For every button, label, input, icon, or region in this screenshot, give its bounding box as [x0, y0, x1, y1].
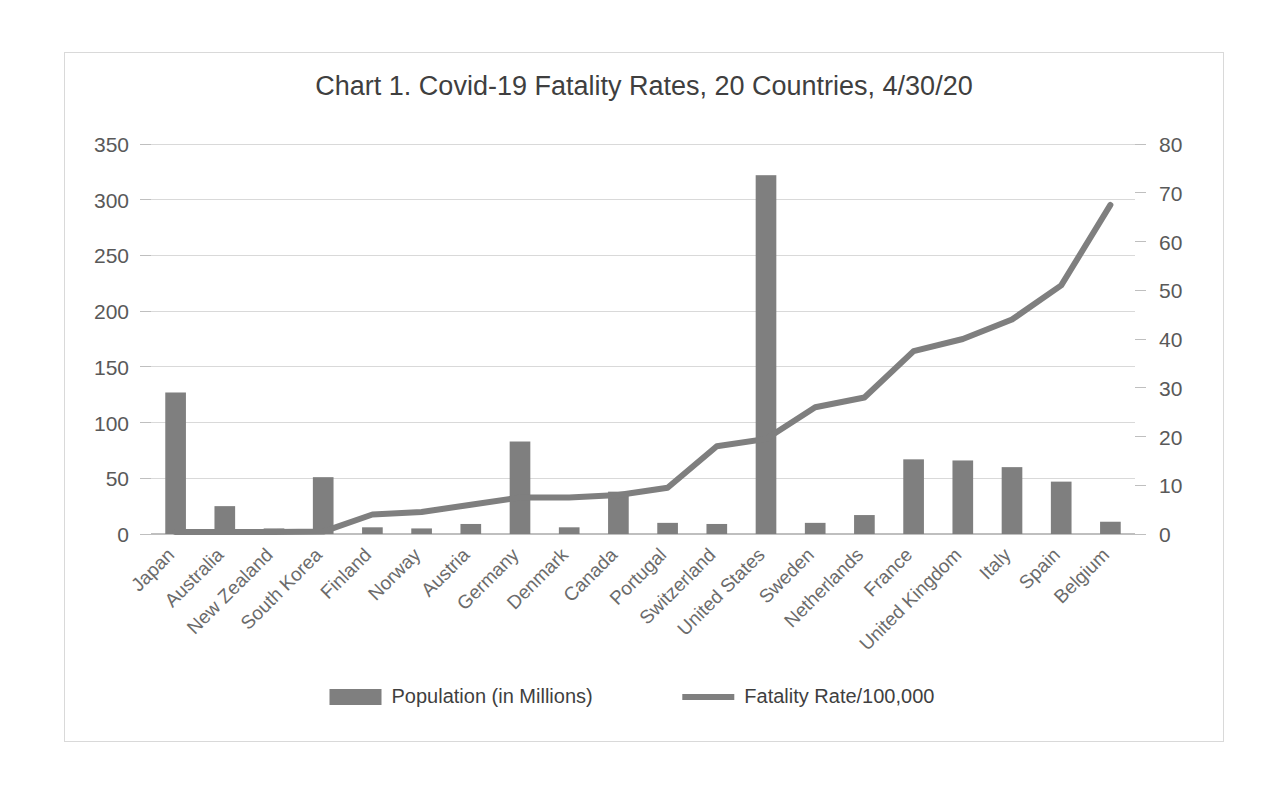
right-axis-tick-label: 80 — [1159, 133, 1182, 156]
right-axis-tick-label: 10 — [1159, 474, 1182, 497]
category-axis-labels: JapanAustraliaNew ZealandSouth KoreaFinl… — [127, 544, 1113, 655]
left-axis-tick-label: 300 — [94, 189, 129, 212]
right-axis-tick-label: 30 — [1159, 377, 1182, 400]
bar-sweden — [805, 523, 826, 534]
left-axis-tick-labels: 050100150200250300350 — [94, 133, 151, 546]
bar-japan — [165, 392, 186, 534]
right-axis-tick-label: 20 — [1159, 426, 1182, 449]
bar-united-kingdom — [952, 460, 973, 534]
legend-item-population[interactable]: Population (in Millions) — [330, 685, 593, 707]
left-axis-tick-label: 100 — [94, 412, 129, 435]
right-axis-tick-label: 0 — [1159, 523, 1171, 546]
category-label-belgium: Belgium — [1050, 544, 1113, 607]
right-axis-tick-label: 70 — [1159, 182, 1182, 205]
bar-netherlands — [854, 515, 875, 534]
gridlines — [151, 144, 1135, 534]
left-axis-tick-label: 150 — [94, 356, 129, 379]
left-axis-tick-label: 350 — [94, 133, 129, 156]
population-bar-series — [165, 175, 1120, 534]
covid-fatality-combo-chart: Chart 1. Covid-19 Fatality Rates, 20 Cou… — [65, 53, 1223, 741]
chart-page: Chart 1. Covid-19 Fatality Rates, 20 Cou… — [0, 0, 1288, 787]
category-label-finland: Finland — [316, 544, 375, 603]
bar-norway — [411, 528, 432, 534]
bar-spain — [1051, 482, 1072, 534]
bar-denmark — [559, 527, 580, 534]
left-axis-tick-label: 250 — [94, 244, 129, 267]
left-axis-tick-label: 50 — [106, 467, 129, 490]
bar-portugal — [657, 523, 678, 534]
chart-frame: Chart 1. Covid-19 Fatality Rates, 20 Cou… — [64, 52, 1224, 742]
right-axis-tick-labels: 01020304050607080 — [1135, 133, 1182, 546]
right-axis-tick-label: 60 — [1159, 231, 1182, 254]
bar-belgium — [1100, 522, 1121, 534]
bar-france — [903, 459, 924, 534]
left-axis-tick-label: 200 — [94, 300, 129, 323]
left-axis-tick-label: 0 — [117, 523, 129, 546]
chart-title: Chart 1. Covid-19 Fatality Rates, 20 Cou… — [315, 71, 972, 101]
category-label-norway: Norway — [364, 544, 425, 605]
bar-switzerland — [706, 524, 727, 534]
chart-legend: Population (in Millions)Fatality Rate/10… — [330, 685, 935, 707]
right-axis-tick-label: 50 — [1159, 279, 1182, 302]
bar-germany — [510, 442, 531, 534]
legend-label: Population (in Millions) — [392, 685, 593, 707]
bar-south-korea — [313, 477, 334, 534]
bar-finland — [362, 527, 383, 534]
legend-item-fatality-rate[interactable]: Fatality Rate/100,000 — [682, 685, 934, 707]
category-label-new-zealand: New Zealand — [183, 544, 277, 638]
bar-italy — [1002, 467, 1023, 534]
legend-label: Fatality Rate/100,000 — [744, 685, 934, 707]
bar-austria — [460, 524, 481, 534]
right-axis-tick-label: 40 — [1159, 328, 1182, 351]
bar-united-states — [756, 175, 777, 534]
category-label-italy: Italy — [975, 544, 1015, 584]
legend-bar-swatch — [330, 689, 382, 705]
